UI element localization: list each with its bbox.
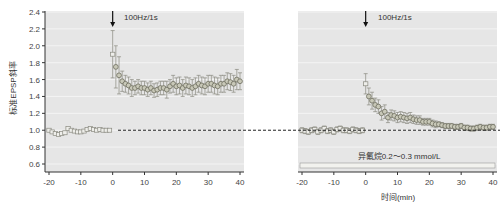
x-tick-label: 30: [204, 178, 213, 187]
data-point-square: [110, 52, 114, 56]
y-tick-label: 1.0: [29, 126, 41, 135]
x-tick-label: 10: [393, 178, 402, 187]
x-tick-label: -20: [43, 178, 55, 187]
data-point-circle: [370, 98, 375, 103]
data-point-circle: [117, 73, 122, 78]
y-tick-label: 2.4: [29, 8, 41, 17]
data-point-circle: [491, 124, 496, 129]
x-tick-label: 0: [363, 178, 368, 187]
y-axis-label: 标准EPSP斜率: [8, 61, 18, 114]
x-tick-label: 20: [172, 178, 181, 187]
figure: -20-100102030400.60.81.01.21.41.61.82.02…: [0, 0, 504, 207]
x-tick-label: -10: [328, 178, 340, 187]
left-chart: -20-100102030400.60.81.01.21.41.61.82.02…: [29, 8, 245, 187]
y-tick-label: 1.4: [29, 92, 41, 101]
x-tick-label: 10: [140, 178, 149, 187]
y-tick-label: 0.8: [29, 143, 41, 152]
data-point-circle: [113, 64, 118, 69]
y-tick-label: 1.6: [29, 76, 41, 85]
stim-label-right: 100Hz/1s: [378, 13, 412, 22]
x-tick-label: 30: [457, 178, 466, 187]
x-axis-label: 时间(min): [381, 192, 416, 202]
x-tick-label: -10: [75, 178, 87, 187]
data-point-square: [63, 131, 67, 135]
data-point-square: [363, 82, 367, 86]
data-point-square: [107, 128, 111, 132]
data-point-circle: [382, 109, 387, 114]
data-point-circle: [238, 79, 243, 84]
x-tick-label: 40: [489, 178, 498, 187]
x-tick-label: 20: [425, 178, 434, 187]
stim-label-left: 100Hz/1s: [124, 13, 158, 22]
x-tick-label: 40: [236, 178, 245, 187]
data-point-circle: [231, 81, 236, 86]
y-tick-label: 1.2: [29, 109, 41, 118]
drug-bar-label: 异氟烷0.2～0.3 mmol/L: [358, 151, 441, 161]
x-tick-label: -20: [296, 178, 308, 187]
y-tick-label: 0.6: [29, 160, 41, 169]
y-tick-label: 2.0: [29, 42, 41, 51]
y-tick-label: 1.8: [29, 59, 41, 68]
x-tick-label: 0: [110, 178, 115, 187]
y-tick-label: 2.2: [29, 25, 41, 34]
drug-application-bar: [300, 163, 495, 168]
plot-area: [298, 11, 497, 172]
data-point-circle: [366, 94, 371, 99]
